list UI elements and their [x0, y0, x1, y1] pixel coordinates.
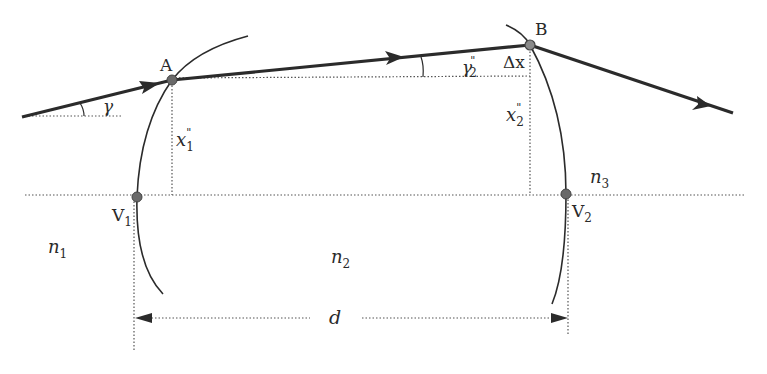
d-left-arrowhead-icon: [135, 313, 152, 323]
label-n3: n3: [590, 166, 609, 191]
label-x1: x"1: [176, 126, 194, 154]
label-n1: n1: [48, 236, 67, 261]
gamma-angle-arc: [80, 103, 84, 116]
label-a: A: [159, 55, 173, 75]
label-gamma2: γ"2: [462, 54, 477, 80]
point-a: [167, 75, 177, 85]
label-v1: V1: [111, 205, 132, 229]
label-n2: n2: [331, 246, 350, 271]
vertex-v2: [561, 189, 571, 199]
label-d: d: [329, 306, 341, 328]
label-x2: x"2: [506, 101, 524, 129]
d-right-arrowhead-icon: [551, 313, 568, 323]
point-b: [525, 40, 535, 50]
label-b: B: [535, 19, 548, 39]
label-delta-x: Δx: [503, 52, 525, 72]
label-gamma: γ: [103, 96, 114, 116]
label-v2: V2: [571, 201, 592, 225]
gamma2-angle-arc: [421, 57, 423, 77]
vertex-v1: [132, 192, 142, 202]
thick-lens-diagram: A B V1 V2 γ γ"2 Δx x"1 x"2 n1 n2 n3 d: [0, 0, 767, 374]
